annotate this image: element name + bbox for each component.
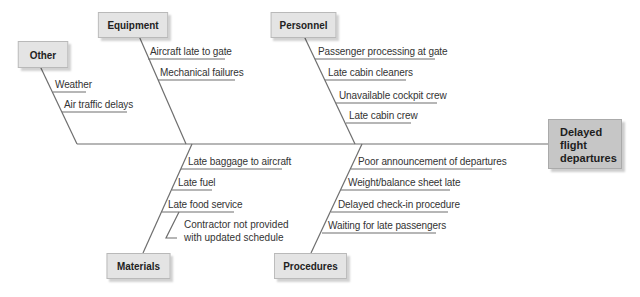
category-other: Other (18, 41, 68, 68)
subcause-line-2: with updated schedule (184, 231, 289, 244)
cause-late-baggage: Late baggage to aircraft (188, 156, 291, 167)
cause-unavailable-cockpit-crew: Unavailable cockpit crew (339, 90, 447, 101)
effect-line-2: flight (560, 139, 621, 152)
cause-mechanical-failures: Mechanical failures (160, 67, 244, 78)
cause-weather: Weather (55, 79, 92, 90)
cause-waiting-late-passengers: Waiting for late passengers (328, 220, 446, 231)
category-personnel: Personnel (271, 12, 337, 38)
effect-box: Delayed flight departures (548, 119, 622, 169)
cause-weight-balance-sheet: Weight/balance sheet late (348, 177, 460, 188)
category-procedures: Procedures (274, 253, 347, 279)
effect-line-1: Delayed (560, 126, 621, 139)
subcause-line-1: Contractor not provided (184, 218, 289, 231)
cause-aircraft-late-to-gate: Aircraft late to gate (150, 46, 232, 57)
cause-late-food-service: Late food service (168, 199, 242, 210)
cause-air-traffic-delays: Air traffic delays (64, 99, 133, 110)
cause-late-cabin-cleaners: Late cabin cleaners (328, 67, 413, 78)
cause-passenger-processing: Passenger processing at gate (318, 46, 448, 57)
cause-late-fuel: Late fuel (178, 177, 215, 188)
cause-delayed-check-in: Delayed check-in procedure (338, 199, 460, 210)
effect-line-3: departures (560, 152, 621, 165)
subcause-contractor: Contractor not provided with updated sch… (184, 218, 289, 244)
cause-poor-announcement: Poor announcement of departures (358, 156, 507, 167)
category-equipment: Equipment (98, 12, 168, 38)
category-materials: Materials (107, 253, 171, 279)
cause-late-cabin-crew: Late cabin crew (349, 110, 418, 121)
